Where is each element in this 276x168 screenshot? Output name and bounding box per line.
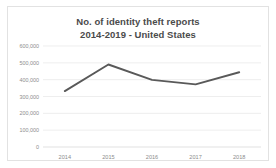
data-line-series [65,65,239,92]
y-axis-tick-label: 600,000 [20,43,40,49]
x-axis-tick-label: 2015 [102,154,114,160]
chart-card: No. of identity theft reports 2014-2019 … [7,6,269,161]
y-axis-tick-label: 0 [36,144,39,150]
y-axis-tick-label: 300,000 [20,94,40,100]
data-series-group [65,65,239,92]
line-chart-svg: 600,000500,000400,000300,000200,000100,0… [8,7,270,162]
y-axis-tick-label: 400,000 [20,77,40,83]
y-axis-tick-label: 500,000 [20,60,40,66]
y-axis-ticks-group: 600,000500,000400,000300,000200,000100,0… [20,43,40,150]
plot-area: 600,000500,000400,000300,000200,000100,0… [8,7,268,160]
y-axis-tick-label: 100,000 [20,127,40,133]
gridlines-group [43,46,261,147]
x-axis-tick-label: 2017 [189,154,201,160]
x-axis-tick-label: 2018 [233,154,245,160]
x-axis-ticks-group: 20142015201620172018 [59,154,246,160]
x-axis-tick-label: 2014 [59,154,71,160]
x-axis-tick-label: 2016 [146,154,158,160]
y-axis-tick-label: 200,000 [20,110,40,116]
